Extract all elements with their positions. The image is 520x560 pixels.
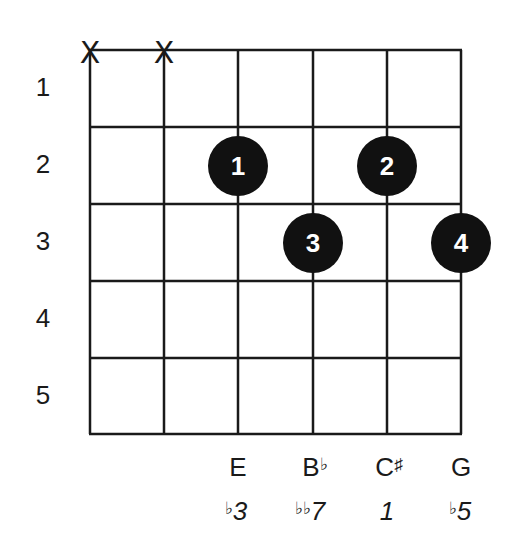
- interval-label-string-6: ♭5: [430, 496, 490, 527]
- interval-number: 5: [457, 496, 471, 526]
- note-label-string-3: E: [208, 452, 268, 483]
- note-name: G: [451, 452, 471, 482]
- finger-number-2: 2: [357, 136, 417, 196]
- mute-x-icon: X: [75, 38, 105, 68]
- note-label-string-5: C♯: [359, 452, 419, 483]
- sharp-icon: ♯: [394, 455, 403, 474]
- interval-label-string-4: ♭♭7: [280, 496, 340, 527]
- fret-number-1: 1: [28, 72, 58, 103]
- fret-number-5: 5: [28, 380, 58, 411]
- fret-number-4: 4: [28, 303, 58, 334]
- note-name: C: [375, 452, 394, 482]
- finger-number-4: 4: [431, 213, 491, 273]
- flat-icon: ♭: [225, 499, 233, 518]
- interval-number: 1: [380, 496, 394, 526]
- fret-number-3: 3: [28, 226, 58, 257]
- flat-icon: ♭: [449, 499, 457, 518]
- double-flat-icon: ♭♭: [295, 499, 311, 518]
- interval-number: 7: [311, 496, 325, 526]
- note-label-string-4: B♭: [285, 452, 345, 483]
- interval-label-string-5: 1: [357, 496, 417, 527]
- flat-icon: ♭: [320, 455, 328, 474]
- note-name: E: [229, 452, 246, 482]
- finger-number-3: 3: [283, 213, 343, 273]
- interval-number: 3: [233, 496, 247, 526]
- interval-label-string-3: ♭3: [206, 496, 266, 527]
- note-name: B: [302, 452, 319, 482]
- finger-number-1: 1: [208, 136, 268, 196]
- note-label-string-6: G: [431, 452, 491, 483]
- fret-number-2: 2: [28, 149, 58, 180]
- mute-x-icon: X: [149, 38, 179, 68]
